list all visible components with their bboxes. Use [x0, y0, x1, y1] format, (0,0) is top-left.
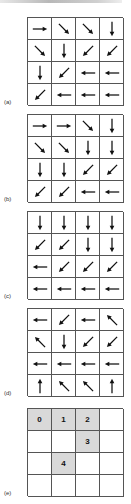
arrow-left-icon — [31, 258, 49, 276]
panel-label: (b) — [4, 196, 11, 202]
number-cell — [76, 453, 100, 475]
arrow-down-left-icon — [55, 311, 73, 329]
cell-number: 3 — [85, 437, 89, 446]
grid-cell — [52, 115, 76, 137]
panel-b: (b) — [27, 114, 123, 202]
number-cell: 4 — [52, 453, 76, 475]
arrow-right-icon — [31, 117, 49, 135]
grid-cell — [100, 309, 124, 331]
grid-cell — [52, 40, 76, 62]
grid-cell — [28, 62, 52, 84]
arrow-down-left-icon — [31, 183, 49, 201]
grid-cell — [100, 137, 124, 159]
arrow-down-right-icon — [79, 117, 97, 135]
cell-number: 4 — [61, 459, 65, 468]
grid-cell — [100, 40, 124, 62]
arrow-up-icon — [103, 377, 121, 395]
arrow-left-icon — [103, 355, 121, 373]
arrow-left-icon — [31, 355, 49, 373]
arrow-down-left-icon — [55, 258, 73, 276]
panel-c: (c) — [27, 211, 123, 299]
grid-cell — [100, 353, 124, 375]
grid-cell — [52, 84, 76, 106]
panel-e: (e)01234 — [27, 408, 123, 496]
arrow-up-left-icon — [55, 377, 73, 395]
arrow-down-left-icon — [55, 64, 73, 82]
grid — [27, 17, 123, 105]
grid-cell — [28, 234, 52, 256]
number-cell — [100, 431, 124, 453]
grid-cell — [76, 137, 100, 159]
grid-cell — [28, 18, 52, 40]
grid-cell — [28, 278, 52, 300]
number-cell — [100, 409, 124, 431]
arrow-down-icon — [103, 20, 121, 38]
arrow-left-icon — [103, 183, 121, 201]
arrow-left-icon — [31, 280, 49, 298]
arrow-left-icon — [79, 355, 97, 373]
number-cell — [28, 453, 52, 475]
arrow-left-icon — [79, 86, 97, 104]
grid-cell — [76, 62, 100, 84]
arrow-down-left-icon — [55, 183, 73, 201]
grid-cell — [76, 278, 100, 300]
cell-number: 0 — [37, 415, 41, 424]
grid-cell — [100, 278, 124, 300]
arrow-left-icon — [79, 183, 97, 201]
grid-cell — [76, 309, 100, 331]
grid-cell — [52, 159, 76, 181]
arrow-down-right-icon — [31, 42, 49, 60]
number-cell — [100, 475, 124, 497]
arrow-down-left-icon — [103, 258, 121, 276]
arrow-down-icon — [31, 214, 49, 232]
grid-cell — [28, 181, 52, 203]
number-cell: 0 — [28, 409, 52, 431]
arrow-down-left-icon — [55, 236, 73, 254]
grid-cell — [28, 256, 52, 278]
arrow-down-icon — [79, 236, 97, 254]
number-cell — [52, 431, 76, 453]
grid-cell — [76, 256, 100, 278]
grid-cell — [28, 353, 52, 375]
arrow-down-icon — [79, 139, 97, 157]
arrow-down-right-icon — [55, 20, 73, 38]
grid-cell — [52, 234, 76, 256]
grid-cell — [52, 278, 76, 300]
grid-cell — [76, 181, 100, 203]
cell-number: 1 — [61, 415, 65, 424]
panel-label: (a) — [4, 99, 11, 105]
number-cell — [76, 475, 100, 497]
grid-cell — [52, 375, 76, 397]
grid-cell — [28, 331, 52, 353]
grid-cell — [52, 62, 76, 84]
panel-d: (d) — [27, 308, 123, 396]
number-cell — [52, 475, 76, 497]
arrow-right-icon — [31, 20, 49, 38]
number-cell: 1 — [52, 409, 76, 431]
grid-cell — [52, 353, 76, 375]
arrow-left-icon — [31, 311, 49, 329]
grid-cell — [28, 375, 52, 397]
grid-cell — [76, 375, 100, 397]
grid-cell — [52, 137, 76, 159]
arrow-down-left-icon — [79, 161, 97, 179]
grid-cell — [76, 212, 100, 234]
arrow-up-left-icon — [79, 377, 97, 395]
grid-cell — [100, 115, 124, 137]
arrow-down-icon — [55, 42, 73, 60]
arrow-down-icon — [55, 214, 73, 232]
number-cell — [100, 453, 124, 475]
grid-cell — [76, 353, 100, 375]
arrow-down-right-icon — [55, 139, 73, 157]
arrow-down-icon — [103, 117, 121, 135]
arrow-down-left-icon — [79, 42, 97, 60]
arrow-down-left-icon — [103, 161, 121, 179]
grid-cell — [52, 309, 76, 331]
arrow-down-left-icon — [79, 333, 97, 351]
arrow-left-icon — [55, 86, 73, 104]
grid-cell — [28, 115, 52, 137]
grid-cell — [52, 331, 76, 353]
grid-cell — [28, 40, 52, 62]
grid-cell — [28, 309, 52, 331]
grid-cell — [100, 234, 124, 256]
